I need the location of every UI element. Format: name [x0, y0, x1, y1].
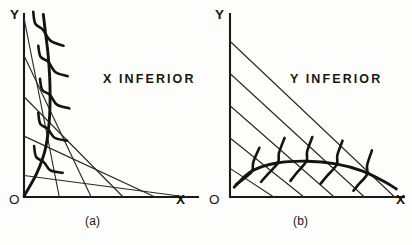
y-axis-label-b: Y — [215, 7, 224, 22]
origin-label-a: O — [9, 192, 20, 207]
plot-area-a — [0, 0, 206, 245]
indifference-curves-group — [236, 137, 372, 191]
region-label-x-inferior: X INFERIOR — [103, 72, 196, 86]
indifference-curve-2 — [38, 46, 67, 76]
expansion-path-group — [24, 14, 50, 196]
x-axis-label-a: X — [176, 192, 185, 207]
indifference-curve-1 — [236, 148, 260, 185]
x-axis-label-b: X — [396, 192, 405, 207]
figure-inferior-goods: Y X O X INFERIOR (a) Y X O Y INFERIOR (b… — [0, 0, 412, 245]
origin-label-b: O — [209, 192, 220, 207]
income-expansion-path — [24, 14, 50, 196]
budget-line-3 — [230, 106, 334, 197]
y-axis-label-a: Y — [10, 7, 19, 22]
panel-caption-b: (b) — [293, 214, 308, 228]
indifference-curve-3 — [40, 79, 69, 109]
plot-area-b — [206, 0, 412, 245]
panel-y-inferior: Y X O Y INFERIOR (b) — [206, 0, 412, 245]
budget-line-4 — [24, 136, 155, 197]
income-expansion-path — [234, 161, 396, 189]
region-label-y-inferior: Y INFERIOR — [290, 72, 382, 86]
budget-line-2 — [230, 73, 364, 197]
budget-line-4 — [230, 138, 304, 197]
indifference-curve-2 — [261, 138, 285, 182]
indifference-curve-1 — [33, 12, 63, 46]
budget-line-1 — [24, 18, 59, 197]
panel-x-inferior: Y X O X INFERIOR (a) — [0, 0, 206, 245]
expansion-path-group — [234, 161, 396, 189]
panel-caption-a: (a) — [85, 214, 100, 228]
